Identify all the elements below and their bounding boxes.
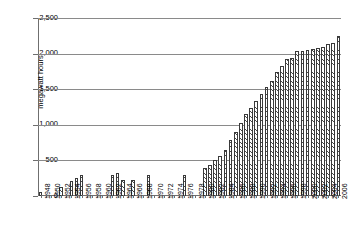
x-tick-label: 1952 [64, 183, 72, 199]
x-tick-label: 1964 [126, 183, 134, 199]
bar [265, 87, 269, 196]
x-tick-label: 1976 [187, 183, 195, 199]
x-tick-label: 1982 [218, 183, 226, 199]
bar [275, 72, 279, 196]
x-tick-mark [41, 195, 42, 198]
x-tick-label: 1956 [85, 183, 93, 199]
x-tick-label: 1992 [270, 183, 278, 199]
x-tick-label: 1980 [208, 183, 216, 199]
x-tick-label: 1986 [239, 183, 247, 199]
x-tick-label: 1958 [95, 183, 103, 199]
x-tick-mark [236, 195, 237, 198]
x-tick-mark [267, 195, 268, 198]
x-tick-label: 2000 [311, 183, 319, 199]
x-tick-label: 2006 [341, 183, 349, 199]
x-tick-mark [154, 195, 155, 198]
bar [290, 58, 294, 196]
plot-area [38, 18, 341, 196]
bar [321, 47, 325, 196]
bar [337, 36, 341, 196]
x-tick-mark [123, 195, 124, 198]
x-tick-label: 1962 [115, 183, 123, 199]
x-tick-mark [112, 195, 113, 198]
bar [285, 59, 289, 196]
x-tick-mark [308, 195, 309, 198]
x-tick-label: 1948 [44, 183, 52, 199]
x-tick-label: 1994 [280, 183, 288, 199]
bar-series [38, 18, 341, 196]
x-tick-label: 1988 [249, 183, 257, 199]
bar [270, 81, 274, 196]
x-tick-label: 1984 [228, 183, 236, 199]
x-tick-label: 1966 [136, 183, 144, 199]
bar [311, 49, 315, 196]
x-tick-mark [82, 195, 83, 198]
bar [306, 50, 310, 196]
x-tick-label: 1950 [54, 183, 62, 199]
x-tick-label: 1996 [290, 183, 298, 199]
bar [295, 51, 299, 196]
bar [254, 101, 258, 196]
x-tick-mark [71, 195, 72, 198]
x-tick-label: 1978 [198, 183, 206, 199]
bar [331, 43, 335, 196]
bar [326, 44, 330, 196]
x-tick-label: 1960 [105, 183, 113, 199]
x-tick-mark [338, 195, 339, 198]
x-tick-label: 1972 [167, 183, 175, 199]
x-tick-label: 1990 [259, 183, 267, 199]
x-axis: 1948195019521954195619581960196219641966… [38, 195, 341, 233]
bar [260, 94, 264, 196]
x-tick-mark [195, 195, 196, 198]
x-tick-mark [225, 195, 226, 198]
x-tick-label: 1970 [157, 183, 165, 199]
bar [316, 48, 320, 196]
x-tick-label: 1974 [177, 183, 185, 199]
x-tick-label: 1998 [300, 183, 308, 199]
bar [280, 66, 284, 196]
bar [301, 51, 305, 196]
x-tick-label: 2002 [321, 183, 329, 199]
x-tick-label: 1968 [146, 183, 154, 199]
x-tick-label: 1954 [74, 183, 82, 199]
x-tick-label: 2004 [331, 183, 339, 199]
x-tick-mark [184, 195, 185, 198]
